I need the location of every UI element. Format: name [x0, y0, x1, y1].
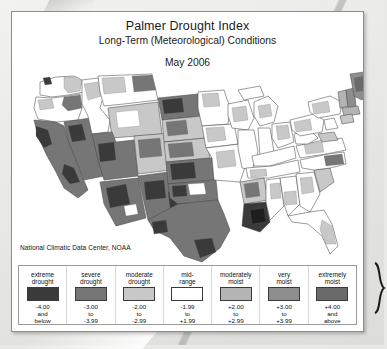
- legend-range: -1.99 to +1.99: [180, 303, 196, 324]
- data-source-credit: National Climatic Data Center, NOAA: [20, 244, 131, 251]
- page-subtitle: Long-Term (Meteorological) Conditions: [12, 35, 363, 46]
- legend-range: -4.00 and below: [35, 303, 51, 324]
- legend-item-extremely-moist: extremely moist +4.00 and above: [309, 266, 356, 324]
- legend-label: mid- range: [179, 271, 195, 286]
- us-choropleth-map: [12, 64, 363, 270]
- legend-item-very-moist: very moist +3.00 to +3.99: [260, 266, 308, 324]
- us-map-svg: [12, 64, 363, 270]
- legend-swatch: [220, 287, 252, 301]
- legend-label: moderately moist: [220, 271, 252, 286]
- legend-range: +3.00 to +3.99: [276, 303, 292, 324]
- legend: extreme drought -4.00 and below severe d…: [18, 265, 357, 325]
- legend-range: +2.00 to +2.99: [228, 303, 244, 324]
- legend-label: extreme drought: [31, 271, 54, 286]
- legend-item-extreme-drought: extreme drought -4.00 and below: [19, 266, 67, 324]
- legend-swatch: [316, 287, 348, 301]
- legend-swatch: [75, 287, 107, 301]
- legend-label: moderate drought: [126, 271, 153, 286]
- legend-label: very moist: [276, 271, 291, 286]
- legend-swatch: [171, 287, 203, 301]
- legend-range: +4.00 and above: [324, 303, 341, 324]
- title-block: Palmer Drought Index Long-Term (Meteorol…: [12, 12, 363, 68]
- legend-range: -3.00 to -3.99: [84, 303, 98, 324]
- legend-range: -2.00 to -2.99: [132, 303, 146, 324]
- legend-item-moderately-moist: moderately moist +2.00 to +2.99: [212, 266, 260, 324]
- legend-swatch: [123, 287, 155, 301]
- paper-bottom-streak: [22, 331, 157, 349]
- legend-label: extremely moist: [318, 271, 346, 286]
- legend-item-moderate-drought: moderate drought -2.00 to -2.99: [116, 266, 164, 324]
- legend-brace-annotation: [373, 262, 387, 314]
- legend-label: severe drought: [80, 271, 102, 286]
- legend-swatch: [27, 287, 59, 301]
- page-title: Palmer Drought Index: [12, 19, 363, 33]
- legend-swatch: [268, 287, 300, 301]
- legend-item-mid-range: mid- range -1.99 to +1.99: [164, 266, 212, 324]
- drought-map-panel: Palmer Drought Index Long-Term (Meteorol…: [11, 11, 364, 332]
- legend-item-severe-drought: severe drought -3.00 to -3.99: [67, 266, 115, 324]
